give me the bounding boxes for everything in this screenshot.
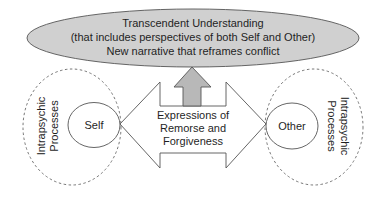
- up-arrow-icon: [174, 67, 211, 106]
- arrow-line-2: Remorse and: [160, 122, 226, 134]
- left-process-line-1: Intrapsychic: [35, 96, 47, 155]
- top-line-3: New narrative that reframes conflict: [106, 45, 279, 57]
- arrow-line-3: Forgiveness: [163, 135, 223, 147]
- top-line-2: (that includes perspectives of both Self…: [71, 31, 316, 43]
- left-process-line-2: Processes: [48, 100, 60, 152]
- arrow-line-1: Expressions of: [157, 109, 230, 121]
- right-process-line-1: Intrapsychic: [339, 97, 351, 156]
- right-process-line-2: Processes: [326, 100, 338, 152]
- other-label: Other: [278, 120, 306, 132]
- diagram-canvas: Transcendent Understanding (that include…: [0, 0, 381, 198]
- top-line-1: Transcendent Understanding: [122, 17, 263, 29]
- self-label: Self: [85, 119, 105, 131]
